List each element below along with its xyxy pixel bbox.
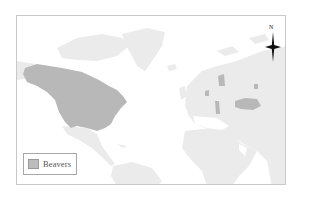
legend: Beavers — [23, 153, 77, 175]
compass-star-icon — [263, 32, 283, 62]
north-arrow: N — [263, 24, 283, 64]
compass-north-label: N — [269, 24, 273, 30]
legend-swatch-beavers — [28, 159, 39, 169]
legend-label-beavers: Beavers — [43, 159, 71, 169]
